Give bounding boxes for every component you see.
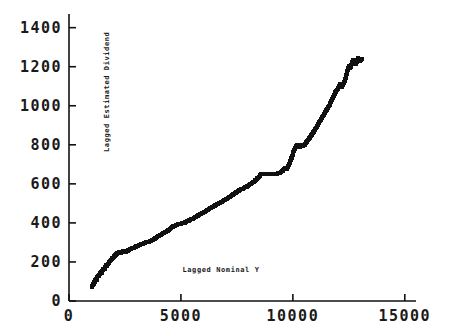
y-axis-title: Lagged Estimated Dividend [104, 32, 111, 152]
x-tick-label: 0 [64, 309, 75, 324]
x-tick-label: 10000 [267, 309, 320, 324]
plot-canvas [0, 0, 451, 332]
y-tick-label: 1200 [20, 59, 62, 74]
y-tick-label: 1400 [20, 20, 62, 35]
x-tick-label: 5000 [160, 309, 202, 324]
y-tick-label: 1000 [20, 98, 62, 113]
y-axis-ticks [69, 28, 76, 301]
data-series [90, 56, 364, 289]
y-tick-label: 800 [30, 137, 62, 152]
y-tick-label: 600 [30, 176, 62, 191]
x-axis-ticks [69, 294, 405, 301]
data-point [360, 57, 364, 61]
y-tick-label: 400 [30, 215, 62, 230]
x-axis-title: Lagged Nominal Y [182, 267, 259, 274]
y-tick-label: 200 [30, 254, 62, 269]
chart-figure: 0200400600800100012001400 05000100001500… [0, 0, 451, 332]
axes [69, 14, 416, 301]
y-tick-label: 0 [51, 294, 62, 309]
x-tick-label: 15000 [378, 309, 431, 324]
